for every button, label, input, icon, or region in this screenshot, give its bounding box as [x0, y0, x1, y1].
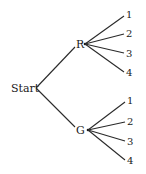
leaf-r-2: 2 [126, 28, 132, 39]
edge-r-2 [85, 34, 124, 44]
leaf-g-3: 3 [127, 136, 133, 147]
leaf-r-4: 4 [126, 67, 132, 78]
node-g: G [76, 124, 85, 137]
edge-start-g [36, 88, 75, 127]
leaf-r-3: 3 [126, 48, 132, 59]
node-r: R [76, 38, 85, 51]
node-start: Start [11, 82, 40, 95]
leaf-g-1: 1 [127, 95, 133, 106]
tree-diagram: Start R 1 2 3 4 G 1 2 3 4 [0, 0, 146, 174]
leaf-g-4: 4 [127, 155, 133, 166]
edge-r-1 [85, 16, 124, 44]
edge-g-4 [88, 130, 125, 160]
edge-start-r [36, 47, 75, 88]
leaf-g-2: 2 [127, 116, 133, 127]
edge-g-3 [88, 130, 125, 141]
leaf-r-1: 1 [126, 9, 132, 20]
